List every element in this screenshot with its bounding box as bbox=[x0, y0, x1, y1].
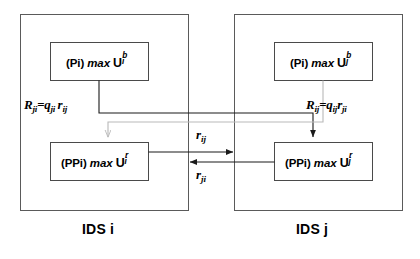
ppi-i-indices: ri bbox=[125, 155, 131, 167]
pi-i-subscript: i bbox=[122, 58, 124, 66]
eq-left-r-sub: ij bbox=[62, 104, 67, 114]
caption-ids-j: IDS j bbox=[296, 222, 328, 236]
ppi-j-operator: max bbox=[314, 157, 337, 169]
pi-j-indices: bj bbox=[346, 55, 352, 67]
connector-pi-j-to-ppi-i bbox=[108, 81, 323, 138]
inner-box-label-pi-j: (Pi) max Ubj bbox=[290, 55, 352, 69]
rji-subscript: ji bbox=[201, 174, 206, 184]
inner-box-label-ppi-j: (PPi) max Urj bbox=[285, 155, 355, 169]
pi-j-operator: max bbox=[311, 57, 334, 69]
pi-j-subscript: j bbox=[346, 58, 348, 66]
ppi-i-prefix: (PPi) bbox=[61, 157, 87, 169]
diagram-canvas bbox=[0, 0, 420, 259]
pi-j-prefix: (Pi) bbox=[290, 57, 308, 69]
equation-label-right: Rij=qijrji bbox=[306, 98, 347, 114]
inner-box-label-ppi-i: (PPi) max Uri bbox=[61, 155, 131, 169]
ids-interaction-diagram: (Pi) max Ubi (PPi) max Uri (Pi) max Ubj … bbox=[0, 0, 420, 259]
pi-i-operator: max bbox=[87, 57, 110, 69]
equation-label-left: Rji=qji rij bbox=[24, 98, 67, 114]
eq-right-r-sub: ji bbox=[342, 104, 347, 114]
rij-subscript: ij bbox=[201, 134, 206, 144]
pi-j-symbol: U bbox=[337, 56, 346, 70]
flow-label-rij: rij bbox=[196, 128, 206, 144]
ppi-i-operator: max bbox=[90, 157, 113, 169]
ppi-j-prefix: (PPi) bbox=[285, 157, 311, 169]
flow-label-rji: rji bbox=[196, 168, 206, 184]
ppi-i-subscript: i bbox=[125, 158, 127, 166]
caption-ids-i: IDS i bbox=[82, 222, 114, 236]
ppi-i-symbol: U bbox=[116, 156, 125, 170]
ppi-j-symbol: U bbox=[340, 156, 349, 170]
eq-left-q-sub: ji bbox=[50, 104, 55, 114]
pi-i-indices: bi bbox=[122, 55, 128, 67]
inner-box-label-pi-i: (Pi) max Ubi bbox=[66, 55, 128, 69]
ppi-j-indices: rj bbox=[349, 155, 355, 167]
pi-i-symbol: U bbox=[113, 56, 122, 70]
pi-i-prefix: (Pi) bbox=[66, 57, 84, 69]
ppi-j-subscript: j bbox=[349, 158, 351, 166]
